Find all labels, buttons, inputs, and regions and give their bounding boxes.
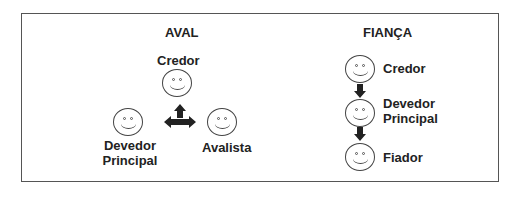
aval-credor-face-icon: [162, 69, 192, 97]
fianca-credor-face-icon: [345, 55, 375, 83]
aval-title: AVAL: [165, 25, 198, 40]
three-way-arrow-icon: [164, 104, 196, 130]
fianca-title: FIANÇA: [363, 25, 412, 40]
aval-devedor-face-icon: [113, 108, 143, 136]
fianca-devedor-face-icon: [345, 99, 375, 127]
aval-devedor-line2: Principal: [100, 153, 160, 168]
fianca-credor-label: Credor: [383, 61, 426, 76]
fianca-devedor-line2: Principal: [383, 111, 438, 126]
aval-devedor-line1: Devedor: [100, 138, 160, 153]
arrow-down-icon: [354, 84, 366, 98]
aval-devedor-label: Devedor Principal: [100, 138, 160, 168]
fianca-devedor-label: Devedor Principal: [383, 96, 438, 126]
fianca-fiador-face-icon: [345, 143, 375, 171]
aval-avalista-label: Avalista: [202, 140, 251, 155]
fianca-devedor-line1: Devedor: [383, 96, 438, 111]
fianca-fiador-label: Fiador: [383, 150, 423, 165]
aval-credor-label: Credor: [157, 53, 200, 68]
aval-avalista-face-icon: [207, 108, 237, 136]
arrow-down-icon: [354, 127, 366, 141]
